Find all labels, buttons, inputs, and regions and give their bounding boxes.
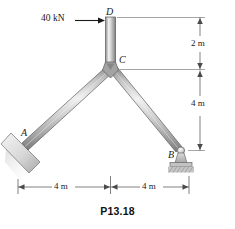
dimension-label-horizontal-right-4m: 4 m xyxy=(142,182,156,191)
support-b-base-plate xyxy=(170,163,192,167)
member-cb-highlight xyxy=(115,71,180,151)
joint-label-d: D xyxy=(106,7,113,17)
dimension-label-vertical-2m: 2 m xyxy=(191,39,205,48)
member-ac xyxy=(22,66,113,150)
load-label-40kn: 40 kN xyxy=(41,14,65,24)
support-b-rocker xyxy=(175,153,187,163)
dimension-label-vertical-4m: 4 m xyxy=(191,99,205,108)
dimension-horizontal-group xyxy=(18,176,189,194)
joint-label-c: C xyxy=(119,55,126,65)
member-ac-highlight xyxy=(25,70,110,147)
figure-caption: P13.18 xyxy=(0,205,235,217)
member-cd-body xyxy=(106,17,116,69)
joint-label-b: B xyxy=(168,150,174,160)
figure-p13-18: 40 kN D C A B 2 m 4 m 4 m 4 m P13.18 xyxy=(0,0,235,229)
support-b-ground xyxy=(168,167,194,173)
dimension-label-horizontal-left-4m: 4 m xyxy=(54,182,68,191)
joint-label-a: A xyxy=(21,128,27,138)
member-cb xyxy=(111,67,182,152)
member-cd xyxy=(106,17,116,69)
load-arrow-40kn xyxy=(75,17,105,23)
truss-diagram xyxy=(0,0,235,229)
